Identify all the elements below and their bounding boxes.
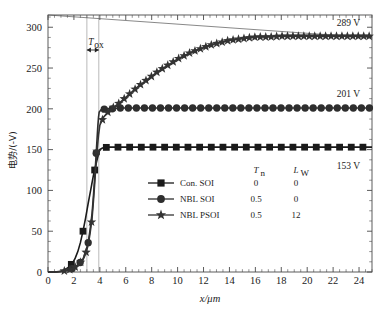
chart-background [0,0,386,314]
y-axis-title: 电势/(-V) [7,131,18,168]
legend-lw-value: 12 [292,210,301,220]
y-tick-label: 50 [32,226,43,237]
x-tick-label: 20 [302,275,313,286]
chart-svg: 024681012141618202224 050100150200250300… [0,0,386,314]
legend-header-lw-sub: W [301,168,310,178]
series-marker [253,104,260,111]
series-marker [150,144,157,151]
series-marker [229,104,236,111]
series-marker [255,144,262,151]
series-marker [266,144,273,151]
x-tick-label: 22 [328,275,339,286]
x-tick-label: 2 [71,275,76,286]
series-marker [103,144,110,151]
y-tick-label: 150 [26,144,42,155]
series-marker [149,104,156,111]
series-marker [336,144,343,151]
series-marker [157,104,164,111]
series-marker [220,144,227,151]
series-marker [278,144,285,151]
legend-header-tn-sub: n [261,168,266,178]
series-marker [221,104,228,111]
y-tick-label: 300 [26,22,42,33]
series-marker [197,104,204,111]
series-marker [138,144,145,151]
plateau-label-0: 153 V [337,161,360,171]
series-marker [350,104,357,111]
series-marker [208,144,215,151]
series-marker [301,144,308,151]
legend-label: Con. SOI [180,178,214,188]
series-marker [301,104,308,111]
plateau-label-2: 289 V [337,18,360,28]
series-marker [366,104,373,111]
series-marker [237,104,244,111]
y-tick-label: 250 [26,63,42,74]
series-marker [326,104,333,111]
y-tick-label: 0 [37,267,42,278]
legend-lw-value: 0 [294,194,299,204]
series-marker [173,104,180,111]
series-marker [125,104,132,111]
series-marker [165,104,172,111]
series-marker [245,104,252,111]
series-marker [342,104,349,111]
legend-header-lw: L [292,165,298,175]
series-marker [181,104,188,111]
x-tick-label: 14 [224,275,235,286]
legend-lw-value: 0 [294,178,299,188]
series-marker [213,104,220,111]
series-marker [189,104,196,111]
series-marker [126,144,133,151]
svg-text:x/μm: x/μm [199,293,221,304]
series-marker [161,144,168,151]
series-marker [325,144,332,151]
x-tick-label: 0 [45,275,50,286]
series-marker [243,144,250,151]
y-tick-label: 200 [26,104,42,115]
legend-tn-value: 0.5 [250,210,262,220]
series-marker [313,144,320,151]
series-marker [348,144,355,151]
series-marker [231,144,238,151]
x-tick-label: 18 [276,275,287,286]
y-tick-label: 100 [26,185,42,196]
series-marker [185,144,192,151]
series-marker [205,104,212,111]
svg-text:电势/(-V): 电势/(-V) [7,131,18,168]
series-marker [269,104,276,111]
x-tick-label: 10 [172,275,183,286]
legend-marker [157,179,164,186]
series-marker [290,144,297,151]
series-marker [141,104,148,111]
series-marker [334,104,341,111]
legend-tn-value: 0 [254,178,259,188]
series-marker [196,144,203,151]
series-marker [277,104,284,111]
x-tick-label: 12 [198,275,209,286]
svg-text:ox: ox [94,40,104,50]
x-tick-label: 8 [149,275,154,286]
series-marker [360,144,367,151]
series-marker [261,104,268,111]
legend-tn-value: 0.5 [250,194,262,204]
series-marker [293,104,300,111]
legend-label: NBL SOI [180,194,214,204]
series-marker [318,104,325,111]
series-marker [133,104,140,111]
x-axis-title: x/μm [199,293,221,304]
series-marker [115,144,122,151]
x-tick-label: 24 [354,275,365,286]
series-marker [285,104,292,111]
potential-distribution-chart: 024681012141618202224 050100150200250300… [0,0,386,314]
legend-label: NBL PSOI [180,210,219,220]
x-tick-label: 6 [123,275,128,286]
x-tick-label: 16 [250,275,261,286]
legend-marker [157,195,165,203]
x-tick-label: 4 [97,275,103,286]
series-marker [358,104,365,111]
plateau-label-1: 201 V [337,89,360,99]
series-marker [173,144,180,151]
series-marker [309,104,316,111]
series-marker [80,228,87,235]
